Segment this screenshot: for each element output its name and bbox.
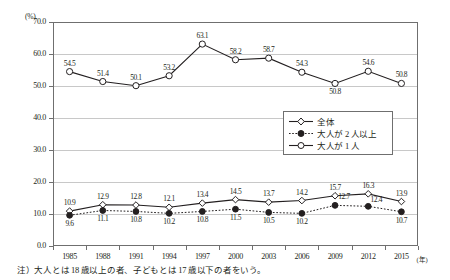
x-axis-tick-label: 2006 xyxy=(294,252,309,261)
x-axis-tick-label: 1985 xyxy=(62,252,77,261)
x-axis-tick-label: 2012 xyxy=(361,252,376,261)
x-axis-tick xyxy=(153,246,154,250)
y-axis-tick-label: 30.0 xyxy=(33,145,46,154)
chart-figure: (%) 全体 大人が 2 人以上 大人が 1 人 注）大人とは 18 歳以上 xyxy=(0,0,450,280)
x-axis-tick-label: 1994 xyxy=(162,252,177,261)
y-axis-tick xyxy=(49,150,53,151)
x-axis-tick-label: 2003 xyxy=(261,252,276,261)
gridline xyxy=(54,86,417,87)
data-point-label: 9.6 xyxy=(65,219,73,228)
data-point-label: 10.2 xyxy=(296,217,308,226)
data-point-label: 10.2 xyxy=(163,217,175,226)
x-axis-tick xyxy=(119,246,120,250)
data-point-label: 14.5 xyxy=(230,187,242,196)
x-axis-tick-label: 1988 xyxy=(95,252,110,261)
data-point-label: 13.4 xyxy=(197,190,209,199)
legend-marker-open-circle xyxy=(288,140,314,151)
y-axis-tick-label: 0.0 xyxy=(37,241,46,250)
data-point-label: 50.8 xyxy=(329,87,341,96)
x-axis-tick xyxy=(186,246,187,250)
chart-legend: 全体 大人が 2 人以上 大人が 1 人 xyxy=(283,111,393,155)
y-axis-tick xyxy=(49,214,53,215)
data-point-label: 10.9 xyxy=(64,198,76,207)
legend-marker-open-diamond xyxy=(288,116,314,127)
data-point-label: 53.2 xyxy=(163,63,175,72)
legend-marker-filled-circle xyxy=(288,128,314,139)
data-point-label: 12.9 xyxy=(97,192,109,201)
legend-label-otona-2ijou: 大人が 2 人以上 xyxy=(317,127,377,139)
y-axis-tick-label: 20.0 xyxy=(33,177,46,186)
data-point-label: 50.8 xyxy=(396,70,408,79)
data-point-label: 11.5 xyxy=(230,213,241,222)
x-axis-unit-label: (年) xyxy=(416,254,427,264)
y-axis-tick-label: 10.0 xyxy=(33,209,46,218)
data-point-label: 16.3 xyxy=(362,181,374,190)
legend-item-otona-1nin[interactable]: 大人が 1 人 xyxy=(288,139,387,151)
y-axis-tick xyxy=(49,22,53,23)
x-axis-tick xyxy=(219,246,220,250)
y-axis-tick-label: 50.0 xyxy=(33,81,46,90)
legend-item-otona-2ijou[interactable]: 大人が 2 人以上 xyxy=(288,127,387,139)
x-axis-tick-label: 2009 xyxy=(328,252,343,261)
chart-footnote: 注）大人とは 18 歳以上の者、子どもとは 17 歳以下の者をいう。 xyxy=(17,263,265,275)
x-axis-tick-label: 2015 xyxy=(394,252,409,261)
x-axis-tick xyxy=(252,246,253,250)
data-point-label: 11.1 xyxy=(97,214,108,223)
y-axis-tick-label: 60.0 xyxy=(33,49,46,58)
data-point-label: 13.7 xyxy=(263,189,275,198)
data-point-label: 10.5 xyxy=(263,216,275,225)
data-point-label: 54.3 xyxy=(296,59,308,68)
y-axis-tick xyxy=(49,86,53,87)
x-axis-tick xyxy=(418,246,419,250)
y-axis-tick xyxy=(49,118,53,119)
data-point-label: 10.7 xyxy=(396,216,408,225)
x-axis-tick xyxy=(318,246,319,250)
legend-label-otona-1nin: 大人が 1 人 xyxy=(317,139,359,151)
x-axis-tick xyxy=(53,246,54,250)
data-point-label: 50.1 xyxy=(130,73,142,82)
data-point-label: 14.2 xyxy=(296,188,308,197)
data-point-label: 12.1 xyxy=(163,194,175,203)
data-point-label: 12.4 xyxy=(370,195,382,204)
x-axis-tick xyxy=(86,246,87,250)
y-axis-tick-label: 40.0 xyxy=(33,113,46,122)
data-point-label: 58.7 xyxy=(263,45,275,54)
legend-item-zentai[interactable]: 全体 xyxy=(288,115,387,127)
x-axis-tick xyxy=(352,246,353,250)
data-point-label: 12.8 xyxy=(130,192,142,201)
data-point-label: 63.1 xyxy=(197,31,209,40)
x-axis-tick xyxy=(385,246,386,250)
legend-label-zentai: 全体 xyxy=(317,115,334,127)
data-point-label: 12.7 xyxy=(338,192,350,201)
data-point-label: 10.8 xyxy=(197,215,209,224)
data-point-label: 13.9 xyxy=(396,189,408,198)
x-axis-tick-label: 1997 xyxy=(195,252,210,261)
data-point-label: 54.5 xyxy=(64,59,76,68)
data-point-label: 58.2 xyxy=(230,47,242,56)
data-point-label: 10.8 xyxy=(130,215,142,224)
x-axis-tick-label: 2000 xyxy=(228,252,243,261)
x-axis-tick-label: 1991 xyxy=(129,252,144,261)
data-point-label: 54.6 xyxy=(362,58,374,67)
y-axis-tick xyxy=(49,182,53,183)
y-axis-tick-label: 70.0 xyxy=(33,17,46,26)
data-point-label: 15.7 xyxy=(329,183,341,192)
y-axis-tick xyxy=(49,54,53,55)
x-axis-tick xyxy=(285,246,286,250)
data-point-label: 51.4 xyxy=(97,69,109,78)
